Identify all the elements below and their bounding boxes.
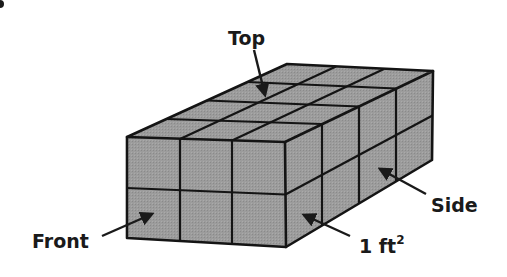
label-side-group: Side	[380, 169, 478, 216]
label-front: Front	[32, 230, 89, 252]
prism	[127, 64, 433, 247]
label-unit: 1 ft2	[359, 233, 405, 257]
label-unit-exponent: 2	[396, 233, 404, 247]
label-side: Side	[431, 194, 478, 216]
label-unit-text: 1 ft	[359, 235, 396, 257]
rectangular-prism-diagram: Top Front Side 1 ft2	[0, 0, 507, 277]
corner-dot-mark	[0, 0, 4, 8]
label-unit-group: 1 ft2	[304, 215, 405, 257]
label-top: Top	[228, 27, 265, 49]
